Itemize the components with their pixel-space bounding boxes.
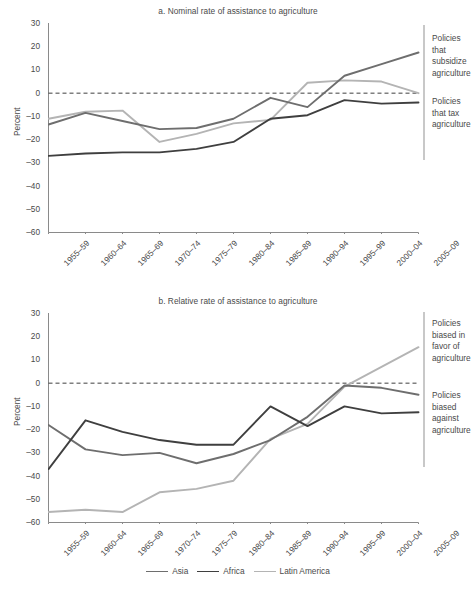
panel-a-annotation-tax: Policiesthat taxagriculture xyxy=(432,96,476,131)
x-tick-label: 1965–69 xyxy=(135,238,165,268)
panel-a-annotation-subsidize: Policiesthatsubsidizeagriculture xyxy=(432,33,476,79)
x-tick-label: 1995–99 xyxy=(357,238,387,268)
annotation-line: that tax xyxy=(432,108,476,120)
y-tick-label: –40 xyxy=(14,471,40,481)
x-tick-label: 2005–09 xyxy=(431,528,461,558)
y-tick-label: 10 xyxy=(14,354,40,364)
x-tick-label: 1960–64 xyxy=(98,238,128,268)
y-tick-label: –50 xyxy=(14,494,40,504)
y-tick-label: 30 xyxy=(14,18,40,28)
y-tick-label: –20 xyxy=(14,424,40,434)
panel-a-plot-area xyxy=(48,23,420,234)
annotation-line: favor of xyxy=(432,341,476,353)
x-tick-label: 2005–09 xyxy=(431,238,461,268)
legend-item-asia[interactable]: Asia xyxy=(146,566,188,576)
legend-swatch-icon xyxy=(197,571,219,572)
annotation-line: Policies xyxy=(432,318,476,330)
annotation-line: agriculture xyxy=(432,68,476,80)
annotation-line: agriculture xyxy=(432,353,476,365)
x-tick-label: 1960–64 xyxy=(98,528,128,558)
legend-swatch-icon xyxy=(146,571,168,572)
x-tick-label: 2000–04 xyxy=(394,238,424,268)
x-tick-label: 2000–04 xyxy=(394,528,424,558)
y-tick-label: –60 xyxy=(14,517,40,527)
series-line-africa xyxy=(49,406,419,469)
annotation-line: Policies xyxy=(432,390,476,402)
series-line-asia xyxy=(49,385,419,463)
series-line-asia xyxy=(49,53,419,130)
x-tick-label: 1970–74 xyxy=(172,238,202,268)
series-line-latin-america xyxy=(49,80,419,142)
figure-agricultural-assistance: a. Nominal rate of assistance to agricul… xyxy=(0,0,476,590)
x-tick-label: 1990–94 xyxy=(320,528,350,558)
legend-swatch-icon xyxy=(254,571,276,572)
y-tick-label: 30 xyxy=(14,308,40,318)
legend-item-africa[interactable]: Africa xyxy=(197,566,244,576)
legend-item-latin-america[interactable]: Latin America xyxy=(254,566,330,576)
y-tick-label: 20 xyxy=(14,41,40,51)
x-tick-label: 1975–79 xyxy=(209,238,239,268)
y-tick-label: –60 xyxy=(14,227,40,237)
x-tick-label: 1980–84 xyxy=(246,238,276,268)
series-line-africa xyxy=(49,100,419,156)
y-tick-label: –10 xyxy=(14,401,40,411)
panel-b-title: b. Relative rate of assistance to agricu… xyxy=(0,296,476,306)
x-tick-label: 1975–79 xyxy=(209,528,239,558)
panel-a-annotation-bar xyxy=(423,25,425,160)
axis-lines xyxy=(49,313,419,523)
chart-legend: AsiaAfricaLatin America xyxy=(0,566,476,576)
annotation-line: agriculture xyxy=(432,425,476,437)
y-tick-label: –40 xyxy=(14,181,40,191)
annotation-line: agriculture xyxy=(432,119,476,131)
panel-b-annotation-against: Policiesbiasedagainstagriculture xyxy=(432,390,476,436)
series-line-latin-america xyxy=(49,347,419,512)
legend-label: Asia xyxy=(172,566,188,576)
x-tick-label: 1955–59 xyxy=(61,238,91,268)
chart-panel-b: b. Relative rate of assistance to agricu… xyxy=(0,290,476,558)
y-tick-label: –30 xyxy=(14,447,40,457)
x-tick-label: 1955–59 xyxy=(61,528,91,558)
panel-b-svg xyxy=(48,313,420,524)
legend-label: Latin America xyxy=(280,566,330,576)
x-tick-label: 1970–74 xyxy=(172,528,202,558)
x-tick-label: 1990–94 xyxy=(320,238,350,268)
panel-a-svg xyxy=(48,23,420,234)
axis-lines xyxy=(49,23,419,233)
y-tick-label: –20 xyxy=(14,134,40,144)
panel-b-annotation-favor: Policiesbiased infavor ofagriculture xyxy=(432,318,476,364)
annotation-line: Policies xyxy=(432,33,476,45)
x-tick-label: 1980–84 xyxy=(246,528,276,558)
x-tick-label: 1995–99 xyxy=(357,528,387,558)
annotation-line: against xyxy=(432,413,476,425)
x-tick-label: 1985–89 xyxy=(283,528,313,558)
annotation-line: subsidize xyxy=(432,56,476,68)
legend-label: Africa xyxy=(223,566,244,576)
panel-a-title: a. Nominal rate of assistance to agricul… xyxy=(0,6,476,16)
y-tick-label: –50 xyxy=(14,204,40,214)
y-tick-label: 0 xyxy=(14,88,40,98)
y-tick-label: 20 xyxy=(14,331,40,341)
y-tick-label: –10 xyxy=(14,111,40,121)
x-tick-label: 1965–69 xyxy=(135,528,165,558)
chart-panel-a: a. Nominal rate of assistance to agricul… xyxy=(0,0,476,292)
panel-b-plot-area xyxy=(48,313,420,524)
y-tick-label: 0 xyxy=(14,378,40,388)
panel-b-annotation-bar xyxy=(423,312,425,467)
y-tick-label: 10 xyxy=(14,64,40,74)
annotation-line: biased xyxy=(432,402,476,414)
x-tick-label: 1985–89 xyxy=(283,238,313,268)
annotation-line: biased in xyxy=(432,330,476,342)
annotation-line: Policies xyxy=(432,96,476,108)
y-tick-label: –30 xyxy=(14,157,40,167)
annotation-line: that xyxy=(432,45,476,57)
